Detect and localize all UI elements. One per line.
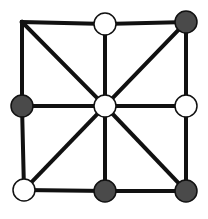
board-line [22, 22, 105, 106]
board-line [105, 22, 186, 24]
game-board [0, 0, 208, 219]
board-line [105, 106, 186, 191]
black-piece-bottom-mid[interactable] [94, 180, 116, 202]
black-piece-bottom-right[interactable] [175, 180, 197, 202]
board-line [24, 106, 105, 190]
black-piece-mid-left[interactable] [11, 95, 33, 117]
white-piece-bottom-left[interactable] [13, 179, 35, 201]
board-line [24, 190, 105, 191]
black-piece-top-right[interactable] [175, 11, 197, 33]
board-line [105, 22, 186, 106]
board-line [22, 22, 105, 24]
white-piece-center[interactable] [94, 95, 116, 117]
board-line [22, 106, 24, 190]
empty-point-top-left[interactable] [11, 11, 33, 33]
white-piece-mid-right[interactable] [175, 95, 197, 117]
white-piece-top-mid[interactable] [94, 13, 116, 35]
